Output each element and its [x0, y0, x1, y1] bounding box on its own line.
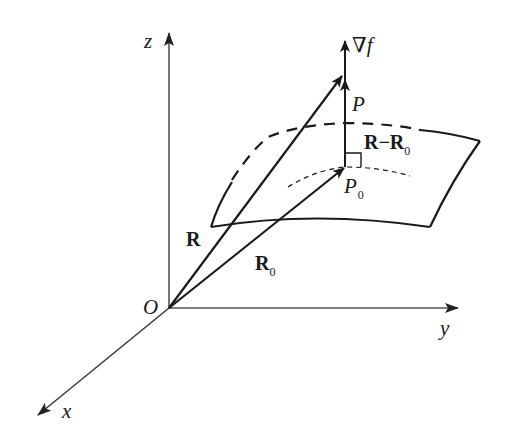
y-axis-label: y — [440, 318, 449, 339]
point-p0-label: P0 — [344, 176, 364, 197]
surface-bottom-edge — [211, 219, 430, 228]
right-angle-marker — [345, 153, 361, 167]
vector-r0-main: R — [255, 252, 269, 274]
surface-left-edge — [211, 182, 232, 227]
z-axis-label: z — [144, 31, 152, 52]
surface-top-edge-visible — [420, 130, 480, 141]
r-minus-r0-subscript: 0 — [404, 144, 410, 158]
origin-label: O — [143, 297, 158, 318]
gradient-normal-diagram: z y x O ∇f P P0 R−R0 R R0 — [0, 0, 508, 435]
surface-right-edge — [430, 141, 480, 227]
point-p0-main: P — [344, 174, 357, 198]
diagram-canvas — [0, 0, 508, 435]
point-p0-subscript: 0 — [358, 188, 364, 202]
x-axis — [38, 308, 169, 415]
point-p-label: P — [352, 94, 365, 115]
vector-r0-label: R0 — [255, 253, 275, 273]
r-minus-r0-label: R−R0 — [364, 132, 410, 152]
gradient-label: ∇f — [352, 35, 373, 56]
vector-r-label: R — [186, 229, 200, 249]
x-axis-label: x — [62, 401, 71, 422]
vector-r0-subscript: 0 — [269, 265, 275, 279]
r-minus-r0-main: R−R — [364, 131, 404, 153]
